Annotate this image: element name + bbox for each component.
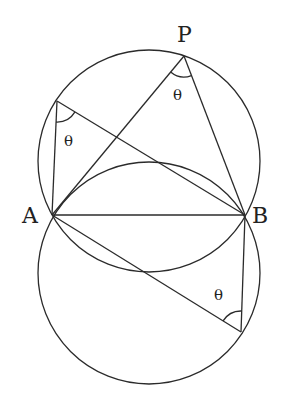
angle-arc-P [171,72,192,77]
point-label-A: A [21,203,39,228]
segment-BD [241,215,245,332]
segment-AD [52,215,241,332]
lower-circle [38,162,260,384]
angle-label-P: θ [173,86,182,104]
segment-PB [184,56,245,215]
point-label-P: P [177,22,192,47]
point-label-B: B [252,203,268,228]
angle-arc-D [223,311,242,321]
angle-arc-C [56,112,75,122]
segment-CA [52,101,57,215]
angle-label-D: θ [214,286,223,304]
geometry-diagram: A B P θ θ θ [0,0,288,402]
angle-label-C: θ [64,132,73,150]
upper-circle [38,50,260,272]
segment-CB [57,101,245,215]
